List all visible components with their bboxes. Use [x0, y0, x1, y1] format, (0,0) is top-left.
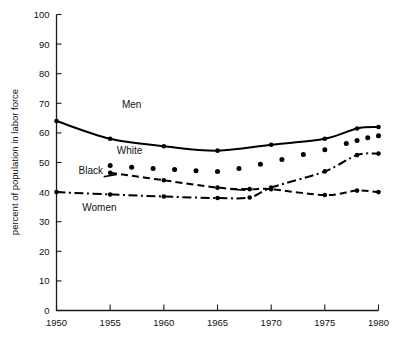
data-point	[365, 135, 370, 140]
series-men	[54, 119, 381, 153]
x-axis-ticks	[57, 305, 379, 311]
series-black	[108, 171, 381, 198]
y-tick-label: 90	[39, 39, 50, 50]
plot-frame	[57, 15, 379, 311]
x-tick-label: 1960	[153, 317, 174, 328]
x-tick-label: 1955	[100, 317, 121, 328]
y-tick-label: 80	[39, 68, 50, 79]
x-tick-label: 1965	[207, 317, 228, 328]
data-point	[215, 169, 220, 174]
data-point	[301, 152, 306, 157]
data-point	[269, 185, 274, 190]
series-line	[57, 121, 379, 151]
data-point	[355, 188, 360, 193]
series-label-women: Women	[82, 202, 116, 213]
data-point	[269, 142, 274, 147]
data-point	[215, 196, 220, 201]
y-tick-label: 70	[39, 98, 50, 109]
x-tick-label: 1970	[261, 317, 282, 328]
data-point	[376, 133, 381, 138]
series-line	[110, 173, 378, 195]
data-point	[172, 167, 177, 172]
x-tick-label: 1980	[368, 317, 389, 328]
data-point	[355, 126, 360, 131]
data-point	[376, 125, 381, 130]
data-point	[54, 119, 59, 124]
data-point	[194, 168, 199, 173]
y-axis-title: percent of population in labor force	[9, 89, 20, 235]
data-point	[376, 151, 381, 156]
data-point	[162, 194, 167, 199]
y-axis-ticks	[57, 15, 62, 311]
data-point	[129, 165, 134, 170]
x-axis-tick-labels: 1950195519601965197019751980	[46, 317, 389, 328]
data-point	[247, 195, 252, 200]
data-point	[215, 185, 220, 190]
data-point	[323, 137, 328, 142]
axis-lines	[57, 15, 379, 311]
y-tick-label: 10	[39, 275, 50, 286]
chart-figure: 0102030405060708090100 19501955196019651…	[0, 0, 401, 344]
y-tick-label: 100	[34, 9, 50, 20]
data-point	[258, 162, 263, 167]
x-tick-label: 1950	[46, 317, 67, 328]
data-point	[236, 166, 241, 171]
series-white	[108, 133, 381, 174]
series-label-white: White	[117, 145, 143, 156]
data-point	[279, 157, 284, 162]
data-point	[322, 147, 327, 152]
y-axis-tick-labels: 0102030405060708090100	[34, 9, 50, 316]
data-point	[108, 163, 113, 168]
data-point	[162, 144, 167, 149]
y-tick-label: 20	[39, 246, 50, 257]
y-tick-label: 30	[39, 216, 50, 227]
data-point	[344, 141, 349, 146]
data-point	[215, 148, 220, 153]
data-point	[376, 190, 381, 195]
data-point	[355, 138, 360, 143]
y-tick-label: 40	[39, 187, 50, 198]
data-series-layer	[54, 119, 381, 201]
series-label-black: Black	[79, 165, 104, 176]
data-point	[108, 137, 113, 142]
data-point	[247, 187, 252, 192]
data-point	[323, 169, 328, 174]
data-point	[162, 178, 167, 183]
data-point	[323, 193, 328, 198]
data-point	[108, 192, 113, 197]
data-point	[54, 190, 59, 195]
data-point	[151, 166, 156, 171]
y-tick-label: 60	[39, 127, 50, 138]
series-women	[54, 151, 381, 200]
y-tick-label: 50	[39, 157, 50, 168]
labor-force-line-chart: 0102030405060708090100 19501955196019651…	[0, 0, 401, 344]
series-label-men: Men	[122, 99, 141, 110]
x-tick-label: 1975	[314, 317, 335, 328]
data-point	[355, 153, 360, 158]
y-tick-label: 0	[44, 305, 49, 316]
